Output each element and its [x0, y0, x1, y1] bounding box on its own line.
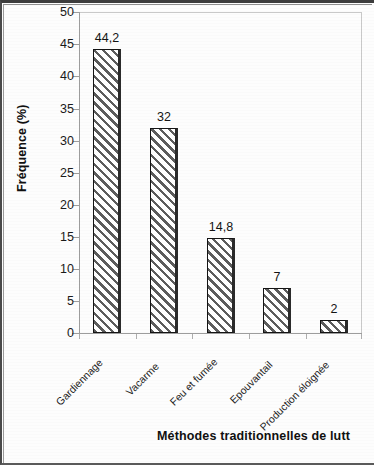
x-axis-line	[72, 333, 362, 334]
y-axis-line	[79, 12, 80, 334]
x-axis-title: Méthodes traditionnelles de lutt	[157, 430, 350, 443]
chart-figure: 50 45 40 35 30 25 20 15 10 5 0 44,2 32 1…	[0, 0, 374, 465]
y-axis-tick-label: 35	[34, 103, 74, 116]
bar-value-label: 7	[255, 271, 299, 284]
y-axis-tick-label: 25	[34, 167, 74, 180]
x-axis-tick	[249, 334, 250, 339]
x-axis-tick	[361, 334, 362, 339]
x-axis-category-label-epouvantail: Epouvantail	[228, 359, 274, 405]
x-axis-category-label-gardiennage: Gardiennage	[54, 357, 104, 407]
bar-gardiennage	[93, 49, 121, 333]
bar-value-label: 14,8	[199, 221, 243, 234]
x-axis-tick	[79, 334, 80, 339]
bar-value-label: 2	[312, 303, 356, 316]
y-axis-title: Fréquence (%)	[16, 93, 29, 203]
bar-feu-et-fumee	[207, 238, 235, 333]
x-axis-tick	[136, 334, 137, 339]
bar-vacarme	[150, 128, 178, 333]
y-axis-tick-label: 20	[34, 199, 74, 212]
x-axis-tick	[192, 334, 193, 339]
bar-epouvantail	[263, 288, 291, 333]
y-axis-tick-label: 30	[34, 135, 74, 148]
x-axis-category-label-feu-et-fumee: Feu et fumée	[168, 356, 219, 407]
x-axis-tick	[306, 334, 307, 339]
y-axis-tick-label: 50	[34, 6, 74, 19]
y-axis-tick-label: 0	[34, 327, 74, 340]
y-axis-tick-label: 15	[34, 231, 74, 244]
y-axis-tick-label: 5	[34, 295, 74, 308]
bar-production-eloignee	[320, 320, 348, 333]
bar-value-label: 44,2	[85, 32, 129, 45]
y-axis-tick-label: 40	[34, 70, 74, 83]
y-axis-tick-label: 10	[34, 263, 74, 276]
x-axis-category-label-vacarme: Vacarme	[124, 361, 161, 398]
bar-value-label: 32	[142, 111, 186, 124]
y-axis-tick-label: 45	[34, 38, 74, 51]
